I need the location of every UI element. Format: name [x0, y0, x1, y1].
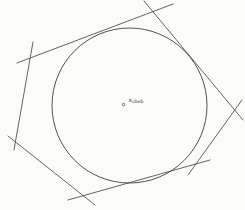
chebyshev-center-figure: xcheb — [0, 0, 245, 210]
figure-svg: xcheb — [0, 0, 245, 210]
